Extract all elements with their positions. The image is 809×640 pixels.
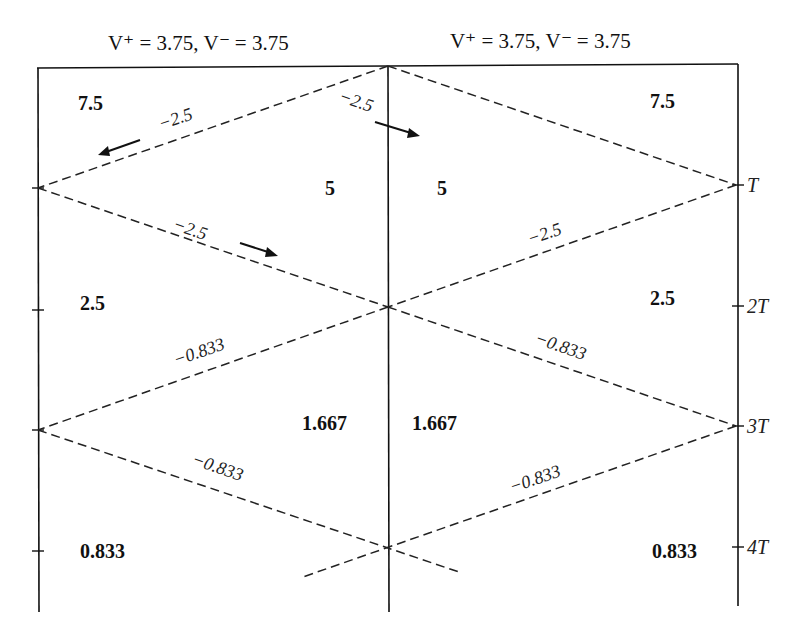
arrow-icon	[240, 243, 278, 257]
time-label-3T: 3T	[746, 415, 770, 437]
time-label-2T: 2T	[747, 295, 770, 317]
top-line-left	[37, 66, 388, 68]
wave-label: −0.833	[533, 328, 589, 364]
center-axis	[388, 66, 389, 612]
header-left: V⁺ = 3.75, V⁻ = 3.75	[108, 31, 289, 55]
region-value: 1.667	[412, 412, 457, 434]
wave-label: −0.833	[171, 334, 227, 370]
top-line-right	[388, 64, 738, 66]
arrow-icon	[375, 122, 420, 138]
wave-label: −0.833	[190, 449, 246, 485]
wave-label: −2.5	[171, 214, 210, 244]
left-axis	[38, 68, 39, 612]
header-right: V⁺ = 3.75, V⁻ = 3.75	[450, 29, 631, 53]
wave-line	[388, 185, 736, 307]
region-value: 2.5	[80, 292, 105, 314]
wave-line	[38, 66, 388, 188]
region-value: 1.667	[302, 412, 347, 434]
region-value: 5	[437, 177, 447, 199]
time-label-T: T	[747, 174, 760, 196]
wave-line	[38, 188, 388, 307]
lattice-diagram: V⁺ = 3.75, V⁻ = 3.75 V⁺ = 3.75, V⁻ = 3.7…	[0, 0, 809, 640]
region-value: 5	[325, 177, 335, 199]
region-value: 0.833	[80, 540, 125, 562]
time-label-4T: 4T	[747, 536, 770, 558]
wave-line	[388, 307, 736, 426]
region-value: 0.833	[652, 540, 697, 562]
wave-line	[388, 66, 736, 185]
wave-label: −2.5	[156, 104, 195, 134]
region-value: 7.5	[650, 90, 675, 112]
wave-label: −2.5	[337, 86, 376, 116]
region-value: 2.5	[650, 287, 675, 309]
arrow-icon	[98, 140, 140, 156]
region-value: 7.5	[78, 92, 103, 114]
wave-label: −2.5	[525, 219, 564, 249]
wave-label: −0.833	[507, 461, 563, 497]
